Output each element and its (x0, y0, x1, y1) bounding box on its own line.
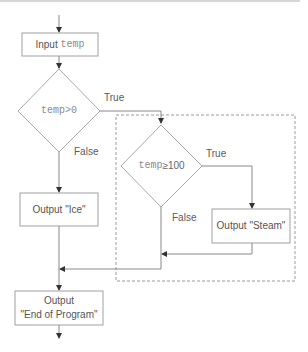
input-prefix: Input (35, 38, 60, 52)
output-end-line2: "End of Program" (20, 308, 97, 322)
output-end-line1: Output (44, 294, 74, 308)
input-var: temp (61, 38, 85, 52)
output-end-label: Output "End of Program" (15, 291, 103, 325)
decision-2-label: temp≥100 (121, 159, 202, 173)
edge-d1-false-label: False (74, 146, 98, 157)
decision-1-var: temp (41, 104, 65, 118)
decision-1-label: temp>0 (18, 104, 100, 118)
decision-2-op: ≥100 (162, 159, 184, 173)
input-node-label: Input temp (22, 33, 98, 56)
edge-d2-false-label: False (172, 212, 196, 223)
dashed-region (116, 115, 295, 281)
edge-d1-true-label: True (104, 92, 124, 103)
decision-2-var: temp (138, 159, 162, 173)
decision-1-op: >0 (65, 104, 77, 118)
output-steam-label: Output "Steam" (212, 209, 290, 243)
edge-d2-true-label: True (206, 148, 226, 159)
output-ice-label: Output "Ice" (20, 193, 98, 226)
